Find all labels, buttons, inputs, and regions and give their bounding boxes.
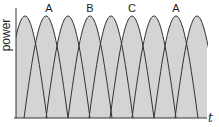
peak-label-1: B [86, 2, 93, 14]
plot-area [0, 0, 219, 127]
peak-label-2: C [128, 2, 136, 14]
y-axis-label: power [0, 15, 13, 55]
peak-label-0: A [45, 2, 52, 14]
x-axis-label: t [208, 111, 213, 125]
power-diagram: power t ABCA [0, 0, 219, 127]
peak-label-3: A [172, 2, 179, 14]
